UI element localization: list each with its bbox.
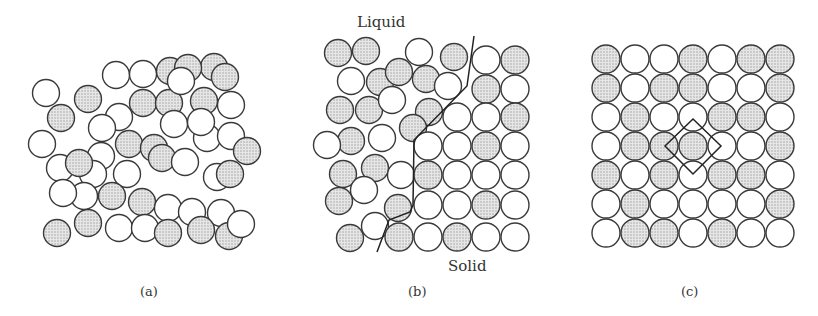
- shaded-atom: [592, 161, 620, 189]
- open-atom: [766, 161, 794, 189]
- open-atom: [501, 132, 529, 160]
- shaded-atom: [66, 150, 93, 177]
- open-atom: [172, 149, 199, 176]
- open-atom: [501, 191, 529, 219]
- caption-b: (b): [408, 284, 426, 299]
- shaded-atom: [766, 45, 794, 73]
- open-atom: [650, 190, 678, 218]
- open-atom: [29, 131, 56, 158]
- open-atom: [106, 215, 133, 242]
- shaded-atom: [337, 225, 364, 252]
- open-atom: [443, 191, 471, 219]
- shaded-atom: [75, 210, 102, 237]
- open-atom: [708, 74, 736, 102]
- shaded-atom: [441, 44, 468, 71]
- open-atom: [33, 80, 60, 107]
- shaded-atom: [708, 219, 736, 247]
- open-atom: [737, 219, 765, 247]
- open-atom: [501, 75, 529, 103]
- open-atom: [737, 74, 765, 102]
- open-atom: [351, 177, 378, 204]
- open-atom: [501, 223, 529, 251]
- shaded-atom: [443, 223, 471, 251]
- open-atom: [501, 161, 529, 189]
- open-atom: [737, 190, 765, 218]
- open-atom: [338, 68, 365, 95]
- open-atom: [443, 161, 471, 189]
- shaded-atom: [621, 190, 649, 218]
- open-atom: [708, 45, 736, 73]
- shaded-atom: [327, 97, 354, 124]
- panel-c-atoms: [592, 45, 794, 247]
- open-atom: [132, 215, 159, 242]
- shaded-atom: [650, 219, 678, 247]
- shaded-atom: [501, 46, 529, 74]
- shaded-atom: [650, 74, 678, 102]
- shaded-atom: [766, 74, 794, 102]
- open-atom: [414, 223, 442, 251]
- shaded-atom: [708, 103, 736, 131]
- figure-canvas: [0, 0, 818, 316]
- open-atom: [388, 162, 415, 189]
- shaded-atom: [188, 217, 215, 244]
- shaded-atom: [708, 161, 736, 189]
- shaded-atom: [386, 59, 413, 86]
- open-atom: [737, 132, 765, 160]
- open-atom: [592, 219, 620, 247]
- open-atom: [414, 191, 442, 219]
- open-atom: [472, 46, 500, 74]
- shaded-atom: [414, 161, 442, 189]
- open-atom: [155, 195, 182, 222]
- open-atom: [103, 62, 130, 89]
- shaded-atom: [472, 191, 500, 219]
- open-atom: [679, 103, 707, 131]
- shaded-atom: [737, 161, 765, 189]
- shaded-atom: [44, 220, 71, 247]
- shaded-atom: [737, 103, 765, 131]
- shaded-atom: [130, 90, 157, 117]
- shaded-atom: [679, 74, 707, 102]
- open-atom: [89, 115, 116, 142]
- open-atom: [621, 74, 649, 102]
- open-atom: [50, 180, 77, 207]
- shaded-atom: [326, 188, 353, 215]
- shaded-atom: [385, 195, 412, 222]
- shaded-atom: [650, 161, 678, 189]
- shaded-atom: [75, 86, 102, 113]
- shaded-atom: [338, 128, 365, 155]
- open-atom: [168, 68, 195, 95]
- open-atom: [379, 87, 406, 114]
- caption-a: (a): [140, 284, 158, 299]
- open-atom: [766, 219, 794, 247]
- open-atom: [443, 132, 471, 160]
- open-atom: [161, 111, 188, 138]
- open-atom: [766, 103, 794, 131]
- open-atom: [130, 61, 157, 88]
- shaded-atom: [99, 183, 126, 210]
- liquid-label: Liquid: [357, 13, 405, 31]
- solid-label: Solid: [448, 257, 487, 275]
- shaded-atom: [472, 132, 500, 160]
- shaded-atom: [217, 161, 244, 188]
- open-atom: [218, 92, 245, 119]
- shaded-atom: [621, 132, 649, 160]
- open-atom: [679, 219, 707, 247]
- shaded-atom: [621, 103, 649, 131]
- open-atom: [314, 132, 341, 159]
- panel-a-atoms: [29, 54, 261, 250]
- shaded-atom: [501, 103, 529, 131]
- shaded-atom: [234, 138, 261, 165]
- shaded-atom: [592, 45, 620, 73]
- open-atom: [621, 161, 649, 189]
- shaded-atom: [353, 38, 380, 65]
- shaded-atom: [592, 74, 620, 102]
- shaded-atom: [48, 105, 75, 132]
- open-atom: [472, 161, 500, 189]
- shaded-atom: [766, 190, 794, 218]
- open-atom: [228, 211, 255, 238]
- open-atom: [592, 190, 620, 218]
- open-atom: [472, 223, 500, 251]
- shaded-atom: [621, 219, 649, 247]
- shaded-atom: [472, 75, 500, 103]
- shaded-atom: [766, 132, 794, 160]
